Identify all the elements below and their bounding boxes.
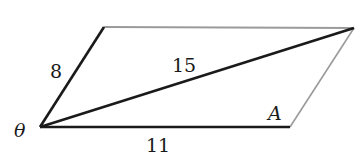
right-edge xyxy=(290,28,354,127)
parallelogram-diagram: 8 15 11 θ A xyxy=(0,0,362,157)
label-bottom-side: 11 xyxy=(146,134,170,156)
label-diagonal: 15 xyxy=(172,54,196,76)
top-edge xyxy=(104,27,354,28)
diagonal-15 xyxy=(40,28,354,127)
label-angle-theta: θ xyxy=(14,119,26,141)
label-angle-a: A xyxy=(266,102,282,124)
label-left-side: 8 xyxy=(50,60,62,82)
